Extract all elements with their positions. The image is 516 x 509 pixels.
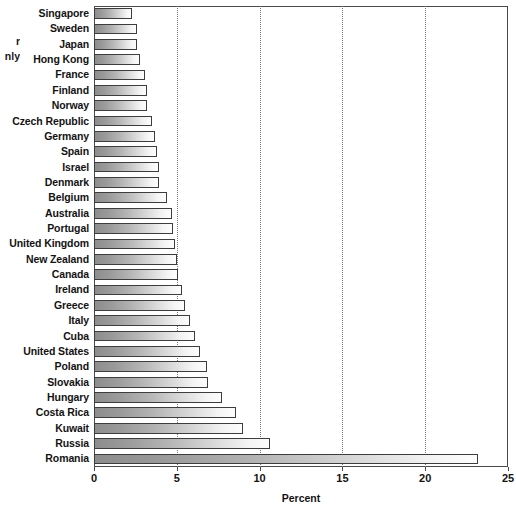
bar	[94, 254, 177, 265]
y-axis-label: Portugal	[0, 221, 89, 236]
x-tick-label: 20	[419, 472, 431, 484]
bar-row	[94, 83, 508, 98]
bar	[94, 392, 222, 403]
y-axis-label: Greece	[0, 298, 89, 313]
bar	[94, 285, 182, 296]
x-tick	[94, 467, 95, 471]
x-tick	[342, 467, 343, 471]
bar-row	[94, 451, 508, 466]
bar-row	[94, 267, 508, 282]
bar-row	[94, 37, 508, 52]
bar-row	[94, 436, 508, 451]
x-tick	[260, 467, 261, 471]
bar-row	[94, 114, 508, 129]
bar	[94, 377, 208, 388]
bar-row	[94, 206, 508, 221]
y-axis-label: Finland	[0, 83, 89, 98]
bar	[94, 162, 159, 173]
y-axis-label: Canada	[0, 267, 89, 282]
y-axis-label: United States	[0, 344, 89, 359]
bar	[94, 177, 159, 188]
y-axis-label: Hungary	[0, 390, 89, 405]
bar-row	[94, 190, 508, 205]
bar-row	[94, 21, 508, 36]
y-axis-label: Poland	[0, 359, 89, 374]
bar	[94, 300, 185, 311]
x-tick-label: 5	[174, 472, 180, 484]
y-axis-label: France	[0, 67, 89, 82]
bar-row	[94, 252, 508, 267]
x-tick-label: 15	[336, 472, 348, 484]
bar-row	[94, 405, 508, 420]
y-axis-label: Australia	[0, 206, 89, 221]
bar	[94, 24, 137, 35]
bar-row	[94, 421, 508, 436]
bar-row	[94, 98, 508, 113]
bar	[94, 208, 172, 219]
x-tick	[177, 467, 178, 471]
y-axis-label: United Kingdom	[0, 236, 89, 251]
bar-chart: r nly SingaporeSwedenJapanHong KongFranc…	[0, 0, 516, 509]
bar	[94, 100, 147, 111]
bar-row	[94, 221, 508, 236]
bar	[94, 131, 155, 142]
y-axis-label: Slovakia	[0, 375, 89, 390]
x-axis-tick-labels: 0510152025	[0, 472, 516, 488]
bar-row	[94, 67, 508, 82]
plot-area	[94, 6, 508, 467]
x-tick-label: 10	[253, 472, 265, 484]
y-axis-label: Costa Rica	[0, 405, 89, 420]
bar-row	[94, 282, 508, 297]
x-tick-label: 25	[502, 472, 514, 484]
bar	[94, 192, 167, 203]
bar-row	[94, 52, 508, 67]
bar	[94, 8, 132, 19]
y-axis-label: Cuba	[0, 329, 89, 344]
y-axis-label: Denmark	[0, 175, 89, 190]
y-axis-label: Romania	[0, 451, 89, 466]
bar	[94, 223, 173, 234]
x-tick	[425, 467, 426, 471]
bar	[94, 331, 195, 342]
bar	[94, 239, 175, 250]
bar	[94, 438, 270, 449]
bar	[94, 423, 243, 434]
bar-row	[94, 390, 508, 405]
bar-row	[94, 129, 508, 144]
y-axis-label: Czech Republic	[0, 114, 89, 129]
y-axis-label: New Zealand	[0, 252, 89, 267]
y-axis-label: Russia	[0, 436, 89, 451]
x-tick-label: 0	[91, 472, 97, 484]
bar	[94, 407, 236, 418]
bar	[94, 346, 200, 357]
y-axis-label: Spain	[0, 144, 89, 159]
y-axis-label: Hong Kong	[0, 52, 89, 67]
bar-row	[94, 344, 508, 359]
bar-row	[94, 313, 508, 328]
y-axis-category-labels: SingaporeSwedenJapanHong KongFranceFinla…	[0, 6, 89, 467]
bar	[94, 54, 140, 65]
x-axis-title: Percent	[94, 492, 508, 504]
bar	[94, 70, 145, 81]
bar-row	[94, 375, 508, 390]
bar-row	[94, 329, 508, 344]
bar-row	[94, 160, 508, 175]
bar	[94, 315, 190, 326]
x-tick	[508, 467, 509, 471]
y-axis-label: Singapore	[0, 6, 89, 21]
bar	[94, 269, 178, 280]
bar	[94, 85, 147, 96]
y-axis-label: Germany	[0, 129, 89, 144]
bars-group	[94, 6, 508, 467]
bar-row	[94, 298, 508, 313]
bar	[94, 116, 152, 127]
bar	[94, 361, 207, 372]
y-axis-label: Sweden	[0, 21, 89, 36]
bar	[94, 146, 157, 157]
bar-row	[94, 144, 508, 159]
bar-row	[94, 6, 508, 21]
y-axis-label: Belgium	[0, 190, 89, 205]
bar	[94, 454, 478, 465]
y-axis-label: Israel	[0, 160, 89, 175]
y-axis-label: Norway	[0, 98, 89, 113]
